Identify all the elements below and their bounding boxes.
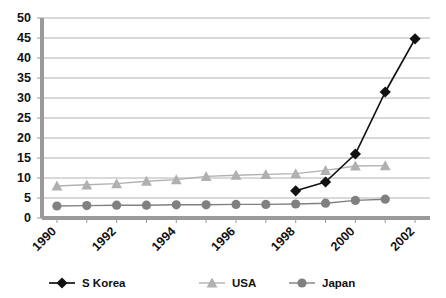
- legend-marker-circle-icon: [297, 278, 306, 287]
- y-axis-tick-label: 5: [24, 191, 31, 205]
- x-axis-tick-label: 1990: [29, 224, 59, 254]
- data-point-marker: [351, 196, 360, 205]
- x-axis-tick-label: 2000: [328, 224, 358, 254]
- y-axis-tick-label: 40: [17, 51, 31, 65]
- chart-container: 0510152025303540455019901992199419961998…: [0, 0, 446, 298]
- y-axis-tick-label: 25: [17, 111, 31, 125]
- legend-item-usa[interactable]: USA: [199, 277, 256, 289]
- data-point-marker: [172, 200, 181, 209]
- line-chart: 0510152025303540455019901992199419961998…: [0, 0, 446, 298]
- y-axis-tick-label: 20: [17, 131, 31, 145]
- data-point-marker: [82, 201, 91, 210]
- y-axis-tick-label: 35: [17, 71, 31, 85]
- data-point-marker: [231, 200, 240, 209]
- x-axis-tick-label: 1998: [268, 224, 298, 254]
- chart-legend: S KoreaUSAJapan: [49, 277, 355, 289]
- legend-label: USA: [232, 277, 256, 289]
- data-point-marker: [291, 199, 300, 208]
- x-axis-ticks: 1990199219941996199820002002: [29, 218, 417, 254]
- x-axis-tick-label: 1992: [89, 224, 119, 254]
- y-axis-tick-label: 0: [24, 211, 31, 225]
- x-axis-tick-label: 1994: [149, 224, 179, 254]
- legend-label: S Korea: [82, 277, 126, 289]
- legend-label: Japan: [322, 277, 355, 289]
- legend-item-s-korea[interactable]: S Korea: [49, 277, 126, 289]
- data-point-marker: [52, 201, 61, 210]
- data-point-marker: [321, 199, 330, 208]
- x-axis-tick-label: 2002: [388, 224, 418, 254]
- y-axis-tick-label: 45: [17, 31, 31, 45]
- data-point-marker: [142, 201, 151, 210]
- legend-marker-diamond-icon: [56, 277, 67, 288]
- y-axis-tick-label: 15: [17, 151, 31, 165]
- x-axis-tick-label: 1996: [209, 224, 239, 254]
- legend-item-japan[interactable]: Japan: [289, 277, 355, 289]
- y-axis-tick-label: 50: [17, 11, 31, 25]
- y-axis-tick-label: 30: [17, 91, 31, 105]
- data-point-marker: [112, 201, 121, 210]
- data-point-marker: [202, 200, 211, 209]
- data-point-marker: [261, 200, 270, 209]
- y-axis-tick-label: 10: [17, 171, 31, 185]
- data-point-marker: [381, 195, 390, 204]
